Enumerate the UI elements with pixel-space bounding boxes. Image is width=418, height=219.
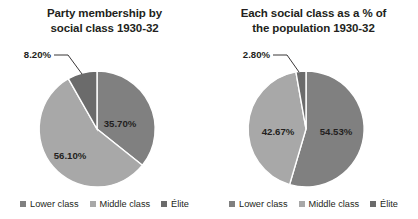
legend-label-middle-class: Middle class: [100, 200, 151, 209]
page-title-left: Party membership by social class 1930-32: [6, 6, 203, 36]
legend-swatch-icon-middle-class: [299, 201, 305, 207]
legend-item-middle-class[interactable]: Middle class: [90, 200, 151, 209]
pie-svg-right: 54.53% 42.67% 2.80%: [209, 48, 418, 190]
callout-leader-line-elite: [273, 55, 299, 72]
pie-svg-left: 35.70% 56.10% 8.20%: [0, 48, 209, 190]
page-title-right: Each social class as a % of the populati…: [215, 6, 412, 36]
chart-panel-party-membership: Party membership by social class 1930-32…: [0, 0, 209, 219]
legend-label-elite: Élite: [380, 200, 398, 209]
pie-area-left: 35.70% 56.10% 8.20%: [0, 48, 209, 190]
legend-left: Lower class Middle class Élite: [0, 200, 209, 209]
callout-label-elite: 2.80%: [243, 49, 271, 60]
legend-swatch-icon-middle-class: [90, 201, 96, 207]
slice-label-lower-class: 54.53%: [320, 126, 353, 137]
pie-area-right: 54.53% 42.67% 2.80%: [209, 48, 418, 190]
legend-swatch-icon-lower-class: [20, 201, 26, 207]
legend-swatch-icon-elite: [370, 201, 376, 207]
legend-swatch-icon-elite: [161, 201, 167, 207]
legend-item-elite[interactable]: Élite: [161, 200, 189, 209]
chart-panel-social-class-population: Each social class as a % of the populati…: [209, 0, 418, 219]
slice-label-lower-class: 35.70%: [104, 118, 137, 129]
legend-label-middle-class: Middle class: [309, 200, 360, 209]
pie-chart-figure: Party membership by social class 1930-32…: [0, 0, 418, 219]
chart-title-line-1: Each social class as a % of: [215, 6, 412, 21]
legend-item-lower-class[interactable]: Lower class: [229, 200, 288, 209]
slice-label-middle-class: 56.10%: [54, 150, 87, 161]
callout-leader-line-elite: [54, 55, 82, 74]
chart-title-line-2: social class 1930-32: [6, 21, 203, 36]
legend-item-middle-class[interactable]: Middle class: [299, 200, 360, 209]
chart-title-line-2: the population 1930-32: [215, 21, 412, 36]
chart-title-line-1: Party membership by: [6, 6, 203, 21]
legend-label-elite: Élite: [171, 200, 189, 209]
legend-right: Lower class Middle class Élite: [209, 200, 418, 209]
slice-label-middle-class: 42.67%: [262, 126, 295, 137]
legend-label-lower-class: Lower class: [239, 200, 288, 209]
legend-label-lower-class: Lower class: [30, 200, 79, 209]
legend-swatch-icon-lower-class: [229, 201, 235, 207]
callout-label-elite: 8.20%: [24, 49, 52, 60]
legend-item-elite[interactable]: Élite: [370, 200, 398, 209]
legend-item-lower-class[interactable]: Lower class: [20, 200, 79, 209]
